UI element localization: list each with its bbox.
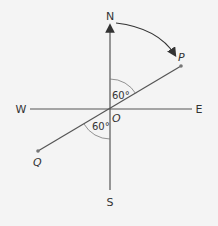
bearing-diagram: N S W E O P Q 60° 60° <box>0 0 218 226</box>
point-p-label: P <box>178 51 185 64</box>
origin-label: O <box>112 112 121 125</box>
north-label: N <box>106 10 114 23</box>
south-label: S <box>107 196 114 209</box>
east-label: E <box>196 103 203 116</box>
west-label: W <box>16 103 27 116</box>
point-q-marker <box>36 149 40 153</box>
point-q-label: Q <box>33 156 42 169</box>
lower-angle-label: 60° <box>92 121 110 132</box>
bearing-arrow-arc <box>116 23 175 55</box>
upper-angle-label: 60° <box>112 90 130 101</box>
point-p-marker <box>179 64 183 68</box>
